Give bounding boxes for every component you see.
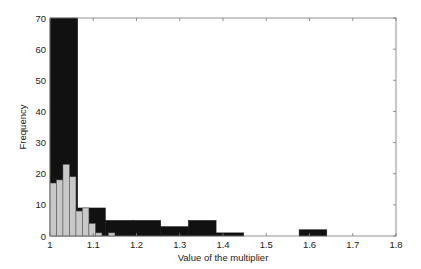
histogram-bar — [216, 233, 244, 236]
y-tick-label: 50 — [35, 75, 46, 86]
histogram-bar — [69, 177, 75, 236]
histogram-bar — [56, 180, 62, 236]
x-tick-label: 1.1 — [87, 239, 100, 250]
x-tick-label: 1.8 — [389, 239, 402, 250]
histogram-bar — [89, 224, 95, 236]
y-tick-label: 70 — [35, 13, 46, 24]
histogram-bar — [82, 208, 88, 236]
histogram-bar — [108, 233, 114, 236]
y-tick-label: 10 — [35, 199, 46, 210]
histogram-chart: 11.11.21.31.41.51.61.71.8 01020304050607… — [0, 0, 421, 269]
x-tick-label: 1 — [47, 239, 52, 250]
histogram-bar — [50, 183, 56, 236]
histogram-bar — [133, 220, 161, 236]
plot-frame — [50, 18, 396, 236]
y-axis-ticks: 010203040506070 — [35, 13, 396, 242]
histogram-bar — [188, 220, 216, 236]
histogram-bar — [299, 230, 327, 236]
y-tick-label: 40 — [35, 106, 46, 117]
histogram-bar — [63, 164, 69, 236]
histogram-bar — [76, 211, 82, 236]
x-tick-label: 1.2 — [130, 239, 143, 250]
y-tick-label: 0 — [41, 231, 46, 242]
dark-histogram-bars — [50, 18, 327, 236]
x-axis-label: Value of the multiplier — [178, 252, 269, 263]
x-tick-label: 1.5 — [260, 239, 273, 250]
y-tick-label: 60 — [35, 44, 46, 55]
histogram-bar — [161, 227, 189, 236]
histogram-bar — [95, 233, 101, 236]
y-tick-label: 20 — [35, 168, 46, 179]
y-axis-label: Frequency — [17, 104, 28, 149]
x-tick-label: 1.6 — [303, 239, 316, 250]
x-tick-label: 1.4 — [216, 239, 229, 250]
x-tick-label: 1.7 — [346, 239, 359, 250]
x-tick-label: 1.3 — [173, 239, 186, 250]
y-tick-label: 30 — [35, 137, 46, 148]
